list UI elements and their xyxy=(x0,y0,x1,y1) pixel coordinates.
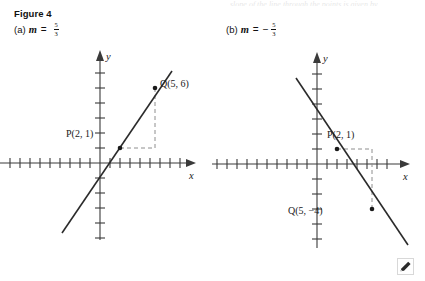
point-label-P-b: P(2, 1) xyxy=(327,129,354,140)
graph-b-svg xyxy=(212,45,425,250)
x-axis-label-b: x xyxy=(403,171,408,182)
graph-panel-a: x y P(2, 1) Q(5, 6) xyxy=(0,45,212,245)
x-axis-arrowhead xyxy=(186,159,196,167)
plotted-line-a xyxy=(62,71,172,233)
x-axis-label-a: x xyxy=(189,170,194,181)
graph-panel-b: x y P(2, 1) Q(5, −4) xyxy=(212,45,425,250)
y-axis-arrowhead xyxy=(313,52,321,63)
panel-b-slope-variable: m xyxy=(241,24,249,35)
panel-a-caption: (a) m = 5 3 xyxy=(14,22,59,37)
graph-a-svg xyxy=(0,45,212,245)
y-axis-label-a: y xyxy=(106,51,111,62)
point-P-marker xyxy=(118,146,123,151)
panel-b-sign: − xyxy=(263,24,269,35)
x-axis-arrowhead xyxy=(400,160,410,168)
y-axis-arrowhead xyxy=(96,50,104,61)
panel-b-slope-denominator: 3 xyxy=(272,30,275,37)
point-label-Q-b: Q(5, −4) xyxy=(288,205,323,216)
panel-b-equals: = xyxy=(252,24,260,35)
point-Q-marker xyxy=(153,86,158,91)
panel-b-label: (b) xyxy=(226,24,238,35)
plotted-line-b xyxy=(296,78,408,245)
y-axis-label-b: y xyxy=(323,53,328,64)
figure-title: Figure 4 xyxy=(14,8,52,19)
panel-a-slope-fraction: 5 3 xyxy=(54,22,59,37)
point-P-marker xyxy=(335,147,340,152)
panel-b-caption: (b) m = − 5 3 xyxy=(226,22,276,37)
panel-a-equals: = xyxy=(40,24,48,35)
rise-run-guides-b xyxy=(337,149,372,209)
cut-off-text-line: slope of the line through the points is … xyxy=(230,0,410,6)
point-label-P-a: P(2, 1) xyxy=(66,128,93,139)
point-label-Q-a: Q(5, 6) xyxy=(160,78,189,89)
figure-page: slope of the line through the points is … xyxy=(0,0,425,281)
panel-a-slope-denominator: 3 xyxy=(55,30,58,37)
panel-a-slope-numerator: 5 xyxy=(55,22,58,29)
panel-b-slope-numerator: 5 xyxy=(272,22,275,29)
panel-a-slope-variable: m xyxy=(29,24,37,35)
panel-b-slope-fraction: 5 3 xyxy=(271,22,276,37)
pencil-icon[interactable] xyxy=(397,258,414,275)
point-Q-marker xyxy=(370,207,375,212)
panel-a-label: (a) xyxy=(14,24,26,35)
